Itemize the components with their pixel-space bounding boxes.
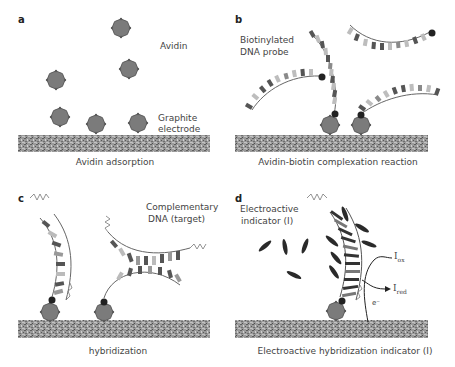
dna-duplex-with-indicator — [307, 194, 362, 300]
indicator-icon — [354, 222, 370, 234]
avidin-icon — [119, 59, 139, 79]
avidin-icon — [111, 18, 131, 38]
biotin-icon — [49, 297, 56, 304]
biotinylated-label: Biotinylated — [240, 34, 294, 46]
panel-label: b — [235, 14, 242, 25]
indicator-icon — [329, 250, 343, 265]
target-label: DNA (target) — [148, 213, 205, 225]
avidin-icon — [40, 302, 60, 322]
avidin-icon — [50, 107, 70, 127]
avidin-icon — [128, 113, 148, 133]
avidin-icon — [46, 70, 66, 90]
graphite-electrode-b — [235, 135, 428, 152]
indicator-icon — [328, 264, 341, 280]
indicator-icon — [300, 238, 310, 255]
panel-caption: Electroactive hybridization indicator (I… — [257, 346, 432, 356]
graphite-electrode-a — [18, 135, 210, 152]
graphite-electrode-c — [18, 320, 210, 338]
indicator-icon — [281, 239, 288, 256]
panel-caption: Avidin-biotin complexation reaction — [258, 157, 417, 167]
diagram-graphics — [0, 0, 455, 367]
i-red-label: Ired — [393, 282, 407, 298]
dna-probe-label: DNA probe — [240, 46, 289, 58]
biotin-icon — [319, 74, 326, 81]
dna-probe — [347, 27, 427, 50]
dna-duplex — [30, 194, 72, 300]
indicator-icon — [257, 239, 272, 253]
dna-probe — [245, 69, 313, 110]
arrow-head-icon — [385, 286, 391, 292]
complementary-label: Complementary — [146, 201, 218, 213]
biotin-icon — [332, 111, 339, 118]
electrode-label: electrode — [158, 123, 200, 135]
biotin-icon — [358, 112, 365, 119]
dna-probe — [309, 30, 337, 104]
panel-label: c — [18, 193, 24, 204]
avidin-icon — [86, 114, 106, 134]
panel-caption: Avidin adsorption — [76, 157, 154, 167]
graphite-electrode-d — [235, 320, 428, 338]
indicator-icon — [286, 270, 302, 281]
electron-label: e⁻ — [372, 297, 380, 309]
avidin-label: Avidin — [160, 40, 187, 52]
indicator-label: indicator (I) — [241, 215, 293, 227]
electroactive-label: Electroactive — [240, 203, 299, 215]
biotin-icon — [339, 298, 346, 305]
i-ox-label: Iox — [394, 250, 405, 266]
indicator-icon — [361, 239, 378, 249]
indicator-icon — [324, 234, 339, 248]
panel-caption: hybridization — [89, 346, 148, 356]
reduction-arrow — [362, 280, 385, 289]
panel-label: a — [18, 14, 25, 25]
avidin-icon — [320, 115, 340, 135]
biotin-icon — [429, 30, 436, 37]
biotin-icon — [101, 299, 108, 306]
dna-duplex — [104, 216, 206, 298]
